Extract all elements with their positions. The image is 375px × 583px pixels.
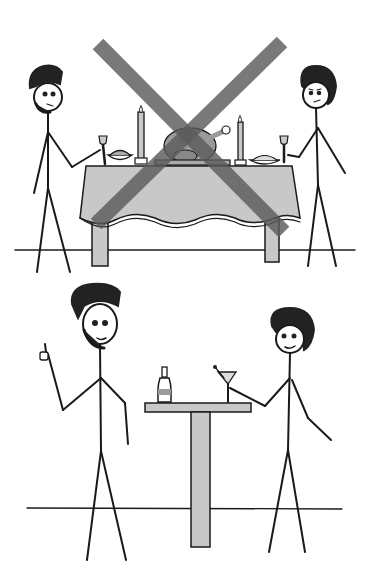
bowl xyxy=(108,155,132,160)
head xyxy=(303,82,329,108)
wine-glass xyxy=(280,136,288,162)
candle xyxy=(138,112,144,160)
candle xyxy=(238,122,243,162)
woman-martini-figure xyxy=(230,308,331,552)
thumbs-up-hand xyxy=(40,352,48,360)
woman-right-figure xyxy=(288,66,345,266)
martini-glass xyxy=(213,365,236,402)
top-panel-formal-dinner xyxy=(15,42,355,272)
floor-line xyxy=(27,508,342,509)
bowl xyxy=(250,160,280,164)
bottom-panel-casual-drinks xyxy=(27,284,342,560)
bar-table-top xyxy=(145,403,251,412)
man-thumbs-up-figure xyxy=(40,284,128,560)
bottle xyxy=(158,367,171,402)
bar-table-leg xyxy=(191,412,210,547)
comic-illustration xyxy=(0,0,375,583)
